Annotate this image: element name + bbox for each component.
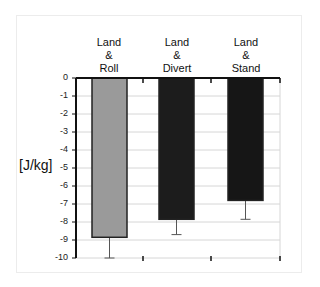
bar bbox=[228, 78, 263, 200]
bar bbox=[159, 78, 194, 219]
plot-area bbox=[0, 0, 320, 287]
bar bbox=[92, 78, 127, 237]
